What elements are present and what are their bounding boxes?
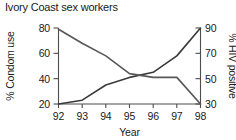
x-tick-label-92: 92 — [53, 110, 65, 122]
line-chart-plot: 80 60 40 20 90 70 50 30 92 93 94 95 96 9… — [0, 0, 236, 140]
series-line-condom-use — [59, 28, 201, 104]
y2-axis-title: % HIV positive — [227, 33, 236, 99]
right-tick-label-30: 30 — [205, 98, 217, 110]
left-tick-label-40: 40 — [39, 73, 51, 85]
left-tick-label-60: 60 — [39, 47, 51, 59]
left-axis-ticks — [54, 28, 59, 104]
y-axis-title: % Condom use — [4, 31, 16, 101]
chart-page: Ivory Coast sex workers — [0, 0, 236, 140]
x-tick-label-97: 97 — [171, 110, 183, 122]
right-tick-label-70: 70 — [205, 47, 217, 59]
x-tick-label-94: 94 — [100, 110, 112, 122]
series-line-hiv-positive — [59, 29, 201, 104]
left-tick-label-80: 80 — [39, 22, 51, 34]
x-axis-ticks — [59, 104, 201, 108]
right-tick-label-90: 90 — [205, 22, 217, 34]
x-tick-label-93: 93 — [77, 110, 89, 122]
x-tick-label-96: 96 — [148, 110, 160, 122]
x-tick-label-98: 98 — [195, 110, 207, 122]
left-tick-label-20: 20 — [39, 98, 51, 110]
right-tick-label-50: 50 — [205, 73, 217, 85]
x-axis-title: Year — [119, 126, 140, 138]
right-axis-ticks — [196, 28, 201, 104]
x-tick-label-95: 95 — [124, 110, 136, 122]
